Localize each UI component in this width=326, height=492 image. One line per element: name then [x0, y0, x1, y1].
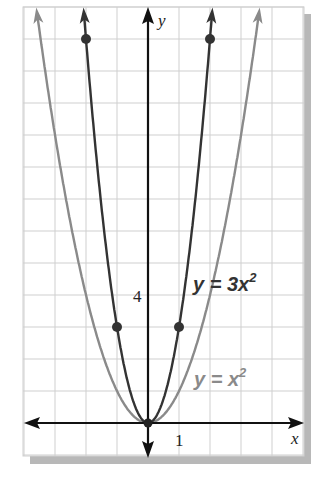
y-axis-label: y [156, 11, 166, 30]
y-tick-label: 4 [133, 287, 142, 306]
data-point [174, 322, 184, 332]
label-y-equals-3x-squared: y = 3x2 [192, 270, 257, 295]
label-y-equals-x-squared: y = x2 [193, 365, 247, 390]
origin-point [144, 419, 153, 428]
data-point [81, 34, 91, 44]
parabola-graph: y x 1 4 y = 3x2 y = x2 [0, 0, 326, 492]
x-axis-label: x [290, 429, 299, 448]
data-point [112, 322, 122, 332]
x-tick-label: 1 [175, 431, 184, 450]
data-point [205, 34, 215, 44]
